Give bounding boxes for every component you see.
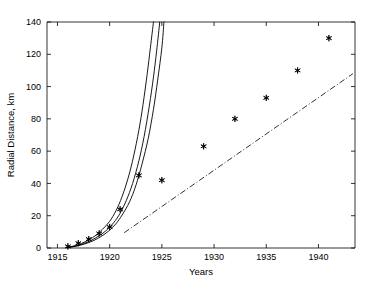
y-tick-label: 40 [31, 179, 41, 189]
plot-canvas: 020406080100120140 191519201925193019351… [0, 0, 369, 288]
y-tick-label: 0 [36, 243, 41, 253]
x-axis-title: Years [189, 266, 213, 277]
y-tick-label: 120 [26, 49, 41, 59]
x-tick-label: 1930 [204, 252, 224, 262]
y-tick-label: 60 [31, 146, 41, 156]
y-axis-title: Radial Distance, km [5, 93, 16, 178]
x-tick-label: 1915 [47, 252, 67, 262]
x-tick-label: 1935 [256, 252, 276, 262]
y-tick-label: 80 [31, 114, 41, 124]
x-tick-label: 1925 [152, 252, 172, 262]
y-tick-label: 100 [26, 82, 41, 92]
chart-figure: 020406080100120140 191519201925193019351… [0, 0, 369, 288]
x-tick-label: 1940 [308, 252, 328, 262]
x-tick-label: 1920 [100, 252, 120, 262]
y-tick-label: 140 [26, 17, 41, 27]
figure-background [0, 0, 369, 288]
y-tick-label: 20 [31, 211, 41, 221]
